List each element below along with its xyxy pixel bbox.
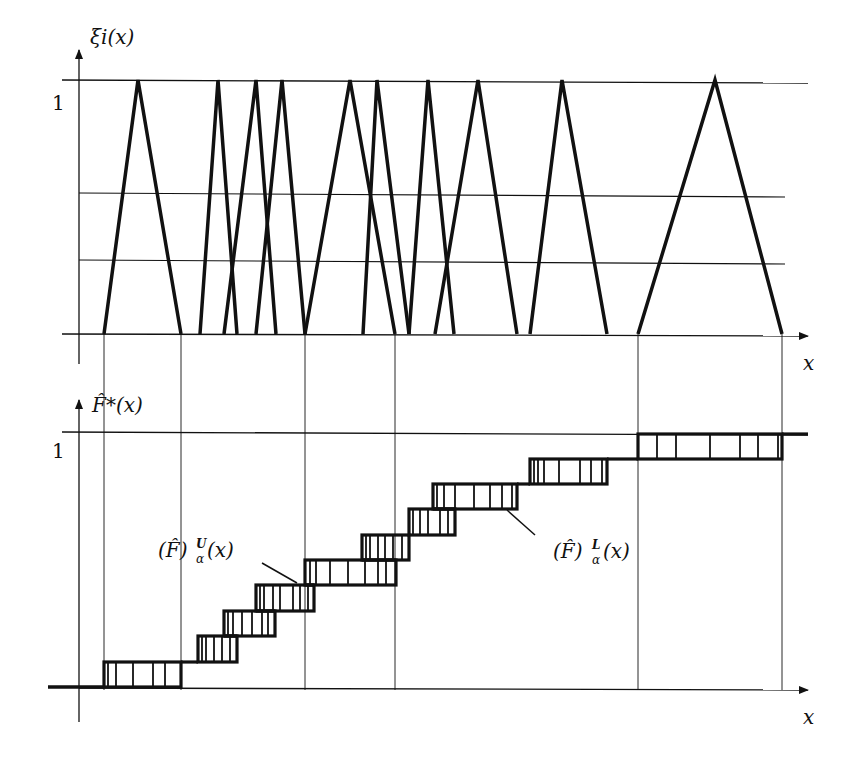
membership-triangle <box>638 80 782 334</box>
top-x-axis <box>62 334 808 336</box>
fuzzy-cdf-diagram: ξi(x) 1 x F̂*(x) 1 x (F̂) U α (x) (F̂) L… <box>0 0 854 770</box>
svg-text:(F̂): (F̂) <box>158 538 187 562</box>
cdf-step-block <box>224 611 275 636</box>
bottom-ytick-one: 1 <box>52 439 65 463</box>
membership-triangle <box>256 80 305 334</box>
bottom-x-axis-label: x <box>803 705 814 729</box>
cdf-step-block <box>104 662 198 687</box>
top-level-one-line <box>62 80 808 83</box>
top-x-axis-label: x <box>803 351 814 375</box>
upper-bound-label: (F̂) U α (x) <box>158 537 297 583</box>
cdf-step-block <box>198 636 237 662</box>
svg-text:(x): (x) <box>207 538 234 562</box>
membership-triangle <box>363 80 409 334</box>
membership-triangle <box>409 80 454 334</box>
cdf-step-block <box>530 459 638 484</box>
membership-triangle <box>200 80 237 334</box>
bottom-x-axis <box>79 688 808 690</box>
cdf-step-block <box>362 535 409 560</box>
membership-triangle <box>530 80 607 334</box>
membership-triangle <box>435 80 517 334</box>
cdf-step-block <box>409 509 455 535</box>
top-y-axis-label: ξi(x) <box>90 25 134 49</box>
lower-bound-label: (F̂) L α (x) <box>507 510 630 567</box>
svg-text:(x): (x) <box>603 539 630 563</box>
bottom-y-axis-label: F̂*(x) <box>91 393 143 417</box>
membership-functions-chart <box>62 50 808 690</box>
cdf-step-block <box>638 434 782 459</box>
top-ytick-one: 1 <box>52 91 65 115</box>
svg-text:α: α <box>592 553 600 567</box>
membership-triangle <box>104 80 181 334</box>
svg-text:L: L <box>591 538 600 552</box>
cdf-step-block <box>305 560 396 585</box>
alpha-cut-line <box>79 260 785 264</box>
svg-text:α: α <box>196 552 204 566</box>
svg-text:(F̂): (F̂) <box>553 539 582 563</box>
cdf-step-block <box>433 484 530 509</box>
